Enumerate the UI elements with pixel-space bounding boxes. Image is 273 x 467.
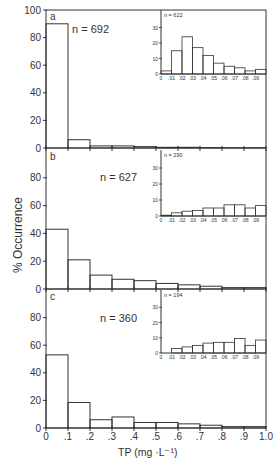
x-tick-label: 1.0 bbox=[259, 431, 273, 442]
histogram-bar bbox=[244, 427, 266, 428]
inset-histogram-bar bbox=[224, 205, 235, 216]
x-tick-label: .7 bbox=[196, 431, 205, 442]
inset-y-tick-label: 0 bbox=[155, 71, 158, 77]
y-axis-label: % Occurrence bbox=[11, 195, 25, 275]
histogram-bar bbox=[134, 422, 156, 428]
y-tick-label: 0 bbox=[35, 423, 41, 434]
inset-histogram-bar bbox=[203, 55, 214, 74]
histogram-bar bbox=[46, 24, 68, 148]
x-tick-label: .9 bbox=[240, 431, 249, 442]
x-tick-label: .4 bbox=[130, 431, 139, 442]
y-tick-label: 0 bbox=[35, 143, 41, 154]
histogram-bar bbox=[156, 422, 178, 428]
inset-x-tick-label: .09 bbox=[252, 217, 259, 223]
inset-x-tick-label: .01 bbox=[168, 75, 175, 81]
inset-sample-size-label: n = 622 bbox=[164, 12, 183, 18]
y-tick-label: 100 bbox=[24, 5, 41, 16]
histogram-bar bbox=[222, 288, 244, 289]
sample-size-label: n = 360 bbox=[100, 312, 137, 324]
inset-histogram-bar bbox=[182, 37, 193, 74]
y-tick-label: 20 bbox=[30, 256, 42, 267]
histogram-bar bbox=[156, 147, 178, 148]
inset-y-tick-label: 0 bbox=[155, 350, 158, 356]
sample-size-label: n = 692 bbox=[72, 23, 109, 35]
histogram-bar bbox=[112, 146, 134, 148]
histogram-bar bbox=[200, 286, 222, 289]
inset-sample-size-label: n = 290 bbox=[164, 152, 183, 158]
x-tick-label: .5 bbox=[152, 431, 161, 442]
inset-x-tick-label: .09 bbox=[252, 354, 259, 360]
inset-x-tick-label: .08 bbox=[242, 217, 249, 223]
inset-x-tick-label: .03 bbox=[189, 354, 196, 360]
histogram-bar bbox=[178, 285, 200, 289]
x-tick-label: .2 bbox=[86, 431, 95, 442]
inset-x-tick-label: .06 bbox=[221, 354, 228, 360]
inset-histogram-bar bbox=[224, 66, 235, 74]
y-tick-label: 40 bbox=[30, 87, 42, 98]
inset-histogram-bar bbox=[203, 343, 214, 353]
inset-y-tick-label: 10 bbox=[152, 56, 158, 62]
histogram-bar bbox=[134, 147, 156, 148]
histogram-bar bbox=[112, 417, 134, 428]
inset-x-tick-label: .02 bbox=[179, 354, 186, 360]
inset-histogram-bar bbox=[214, 342, 225, 353]
inset-x-tick-label: .06 bbox=[221, 217, 228, 223]
inset-histogram-bar bbox=[182, 211, 193, 216]
inset-x-tick-label: .04 bbox=[200, 354, 207, 360]
inset-y-tick-label: 10 bbox=[152, 335, 158, 341]
histogram-bar bbox=[222, 427, 244, 428]
inset-y-tick-label: 30 bbox=[152, 25, 158, 31]
inset-x-tick-label: .05 bbox=[210, 75, 217, 81]
y-tick-label: 0 bbox=[35, 284, 41, 295]
y-tick-label: 40 bbox=[30, 367, 42, 378]
inset-histogram-bar bbox=[224, 342, 235, 353]
histogram-bar bbox=[178, 147, 200, 148]
histogram-bar bbox=[244, 288, 266, 289]
inset-histogram-bar bbox=[235, 339, 246, 353]
inset-y-tick-label: 0 bbox=[155, 213, 158, 219]
inset-y-tick-label: 20 bbox=[152, 40, 158, 46]
x-tick-label: .8 bbox=[218, 431, 227, 442]
histogram-bar bbox=[90, 275, 112, 289]
inset-x-tick-label: .04 bbox=[200, 217, 207, 223]
inset-x-tick-label: .08 bbox=[242, 75, 249, 81]
inset-x-tick-label: .06 bbox=[221, 75, 228, 81]
histogram-bar bbox=[68, 402, 90, 428]
inset-histogram-bar bbox=[245, 345, 256, 353]
x-tick-label: 0 bbox=[43, 431, 49, 442]
panel-label: a bbox=[50, 11, 56, 22]
inset-histogram-bar bbox=[182, 347, 193, 353]
histogram-bar bbox=[200, 425, 222, 428]
inset-y-tick-label: 20 bbox=[152, 320, 158, 326]
inset-histogram-bar bbox=[203, 208, 214, 216]
histogram-bar bbox=[156, 283, 178, 289]
inset-histogram-bar bbox=[193, 210, 204, 216]
y-tick-label: 80 bbox=[30, 172, 42, 183]
inset-x-tick-label: .07 bbox=[231, 217, 238, 223]
inset-x-tick-label: .05 bbox=[210, 354, 217, 360]
inset-x-tick-label: 0 bbox=[160, 354, 163, 360]
inset-x-tick-label: .05 bbox=[210, 217, 217, 223]
inset-x-tick-label: .09 bbox=[252, 75, 259, 81]
sample-size-label: n = 627 bbox=[100, 171, 137, 183]
y-tick-label: 20 bbox=[30, 395, 42, 406]
x-tick-label: .3 bbox=[108, 431, 117, 442]
inset-histogram-bar bbox=[214, 63, 225, 74]
inset-histogram-bar bbox=[172, 51, 183, 74]
histogram-figure: 020406080100an = 69201020300.01.02.03.04… bbox=[0, 0, 273, 467]
histogram-bar bbox=[46, 229, 68, 289]
inset-y-tick-label: 30 bbox=[152, 165, 158, 171]
x-axis-label: TP (mg ·L⁻¹) bbox=[118, 446, 177, 458]
inset-x-tick-label: .04 bbox=[200, 75, 207, 81]
histogram-bar bbox=[68, 140, 90, 148]
y-tick-label: 60 bbox=[30, 340, 42, 351]
inset-histogram-bar bbox=[214, 208, 225, 216]
inset-x-tick-label: 0 bbox=[160, 217, 163, 223]
inset-x-tick-label: .07 bbox=[231, 354, 238, 360]
inset-x-tick-label: .01 bbox=[168, 354, 175, 360]
inset-x-tick-label: .02 bbox=[179, 75, 186, 81]
inset-histogram-bar bbox=[172, 348, 183, 353]
y-tick-label: 60 bbox=[30, 60, 42, 71]
inset-sample-size-label: n = 194 bbox=[164, 292, 183, 298]
histogram-bar bbox=[68, 260, 90, 289]
